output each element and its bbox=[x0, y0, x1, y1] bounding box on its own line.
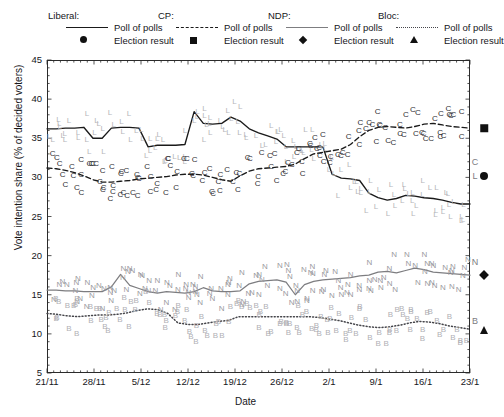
legend-row-bloc-poll: Poll of polls bbox=[378, 21, 399, 34]
poll-point-liberal: L bbox=[411, 210, 415, 218]
poll-point-ndp: N bbox=[387, 265, 393, 273]
legend-party-ndp: NDP: bbox=[268, 10, 291, 21]
poll-point-liberal: L bbox=[377, 186, 381, 194]
poll-point-liberal: L bbox=[392, 191, 396, 199]
poll-point-bloc: B bbox=[434, 317, 439, 325]
poll-point-cp: C bbox=[79, 189, 85, 197]
square-icon bbox=[190, 37, 197, 44]
poll-point-bloc: B bbox=[146, 299, 151, 307]
legend-label-ndp-poll: Poll of polls bbox=[334, 22, 383, 33]
poll-point-bloc: B bbox=[122, 306, 127, 314]
legend-key-bloc-line bbox=[396, 21, 438, 34]
legend-party-liberal: Liberal: bbox=[48, 10, 79, 21]
legend-label-liberal-poll: Poll of polls bbox=[114, 22, 163, 33]
legend-key-cp-line bbox=[176, 21, 218, 34]
poll-point-ndp: N bbox=[450, 263, 456, 271]
legend-key-liberal-line bbox=[66, 21, 108, 34]
poll-point-liberal: L bbox=[269, 122, 273, 130]
poll-point-cp: C bbox=[174, 168, 180, 176]
poll-point-ndp: N bbox=[293, 282, 299, 290]
poll-point-bloc: B bbox=[441, 326, 446, 334]
legend-party-cp: CP: bbox=[158, 10, 174, 21]
poll-point-ndp: N bbox=[239, 269, 245, 277]
legend-label-bloc-poll: Poll of polls bbox=[444, 22, 493, 33]
y-tick-15: 15 bbox=[20, 289, 42, 300]
poll-point-cp: C bbox=[135, 192, 141, 200]
poll-point-bloc: B bbox=[66, 325, 71, 333]
poll-point-ndp: N bbox=[348, 271, 354, 279]
poll-point-cp: C bbox=[320, 131, 326, 139]
poll-point-cp: C bbox=[374, 138, 380, 146]
poll-point-ndp: N bbox=[146, 277, 152, 285]
poll-point-cp: C bbox=[356, 141, 362, 149]
poll-point-liberal: L bbox=[140, 135, 144, 143]
poll-point-cp: C bbox=[437, 133, 443, 141]
legend-row-liberal-poll: Poll of polls bbox=[48, 21, 79, 34]
poll-point-ndp: N bbox=[256, 291, 262, 299]
poll-point-bloc: B bbox=[213, 332, 218, 340]
poll-point-cp: C bbox=[335, 151, 341, 159]
poll-point-ndp: N bbox=[415, 279, 421, 287]
end-label-l: L bbox=[472, 171, 477, 181]
poll-point-ndp: N bbox=[440, 284, 446, 292]
poll-point-liberal: L bbox=[237, 129, 241, 137]
poll-point-ndp: N bbox=[246, 290, 252, 298]
poll-point-liberal: L bbox=[339, 166, 343, 174]
poll-point-ndp: N bbox=[462, 264, 468, 272]
poll-point-ndp: N bbox=[431, 262, 437, 270]
poll-point-ndp: N bbox=[329, 292, 335, 300]
legend-row-liberal-result: Election result bbox=[48, 34, 79, 47]
poll-point-liberal: L bbox=[92, 129, 96, 137]
poll-point-liberal: L bbox=[121, 128, 125, 136]
poll-point-cp: C bbox=[100, 186, 106, 194]
poll-point-bloc: B bbox=[194, 322, 199, 330]
poll-point-bloc: B bbox=[265, 330, 270, 338]
poll-point-cp: C bbox=[272, 150, 278, 158]
poll-point-liberal: L bbox=[451, 198, 455, 206]
poll-point-bloc: B bbox=[464, 337, 469, 345]
poll-point-liberal: L bbox=[134, 127, 138, 135]
poll-point-cp: C bbox=[100, 167, 106, 175]
poll-point-ndp: N bbox=[253, 272, 259, 280]
poll-point-cp: C bbox=[207, 165, 213, 173]
poll-point-bloc: B bbox=[304, 308, 309, 316]
y-tick-25: 25 bbox=[20, 211, 42, 222]
poll-point-liberal: L bbox=[183, 127, 187, 135]
poll-point-bloc: B bbox=[405, 315, 410, 323]
legend-key-liberal-marker bbox=[66, 34, 108, 47]
poll-point-bloc: B bbox=[427, 308, 432, 316]
legend-group-ndp: NDP: Poll of polls Election result bbox=[268, 10, 291, 47]
poll-point-bloc: B bbox=[244, 300, 249, 308]
poll-point-liberal: L bbox=[393, 202, 397, 210]
poll-point-ndp: N bbox=[372, 276, 378, 284]
diamond-icon bbox=[299, 36, 307, 44]
poll-point-liberal: L bbox=[153, 144, 157, 152]
poll-point-cp: C bbox=[123, 167, 129, 175]
poll-point-cp: C bbox=[163, 189, 169, 197]
poll-point-bloc: B bbox=[117, 316, 122, 324]
poll-point-bloc: B bbox=[94, 305, 99, 313]
poll-point-cp: C bbox=[345, 151, 351, 159]
poll-point-liberal: L bbox=[447, 201, 451, 209]
x-tick-5-12: 5/12 bbox=[132, 376, 151, 387]
chart-legend: Liberal: Poll of polls Election result C… bbox=[0, 10, 491, 56]
poll-point-cp: C bbox=[421, 130, 427, 138]
poll-point-ndp: N bbox=[412, 262, 418, 270]
poll-point-bloc: B bbox=[286, 329, 291, 337]
legend-row-cp-result: Election result bbox=[158, 34, 174, 47]
poll-point-bloc: B bbox=[173, 312, 178, 320]
poll-point-liberal: L bbox=[459, 217, 463, 225]
y-tick-45: 45 bbox=[20, 54, 42, 65]
poll-point-cp: C bbox=[234, 169, 240, 177]
poll-point-ndp: N bbox=[456, 286, 462, 294]
poll-point-cp: C bbox=[71, 172, 77, 180]
triangle-icon bbox=[410, 36, 418, 43]
poll-point-liberal: L bbox=[354, 178, 358, 186]
poll-point-ndp: N bbox=[310, 287, 316, 295]
legend-row-cp-poll: Poll of polls bbox=[158, 21, 174, 34]
poll-point-ndp: N bbox=[75, 275, 81, 283]
poll-point-liberal: L bbox=[57, 120, 61, 128]
poll-point-liberal: L bbox=[236, 118, 240, 126]
legend-key-ndp-marker bbox=[286, 34, 328, 47]
poll-point-ndp: N bbox=[155, 277, 161, 285]
